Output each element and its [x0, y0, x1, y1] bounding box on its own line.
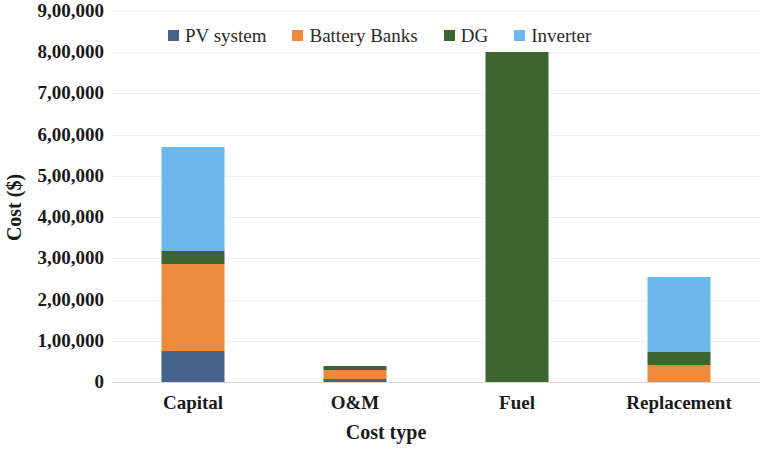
bar-segment[interactable] — [162, 251, 225, 264]
y-axis-tick-label: 0 — [0, 371, 104, 393]
bar-segment[interactable] — [648, 352, 711, 365]
bar-stack[interactable] — [324, 366, 387, 382]
x-axis-tick-labels: CapitalO&MFuelReplacement — [112, 392, 760, 420]
y-axis-tick-label: 7,00,000 — [0, 82, 104, 104]
bar-segment[interactable] — [162, 264, 225, 351]
bar-segment[interactable] — [162, 351, 225, 382]
bar-group — [112, 11, 274, 382]
x-axis-baseline — [112, 382, 760, 383]
bar-stack[interactable] — [162, 147, 225, 382]
bar-group — [598, 11, 760, 382]
bar-stack[interactable] — [648, 277, 711, 382]
bar-segment[interactable] — [648, 277, 711, 351]
bar-stack[interactable] — [486, 52, 549, 382]
x-axis-title: Cost type — [0, 421, 772, 444]
y-axis-tick-label: 2,00,000 — [0, 289, 104, 311]
bar-segment[interactable] — [162, 147, 225, 251]
bar-segment[interactable] — [648, 365, 711, 382]
x-axis-tick-label: Fuel — [499, 392, 535, 414]
y-axis-tick-label: 9,00,000 — [0, 0, 104, 22]
bar-series-layer — [112, 11, 760, 382]
y-axis-tick-label: 8,00,000 — [0, 41, 104, 63]
bar-segment[interactable] — [324, 370, 387, 378]
y-axis-tick-label: 1,00,000 — [0, 330, 104, 352]
x-axis-tick-label: Replacement — [626, 392, 732, 414]
y-axis-title: Cost ($) — [3, 128, 26, 288]
stacked-bar-chart: PV systemBattery BanksDGInverter 01,00,0… — [0, 0, 772, 449]
bar-group — [274, 11, 436, 382]
bar-group — [436, 11, 598, 382]
x-axis-tick-label: O&M — [331, 392, 380, 414]
bar-segment[interactable] — [486, 52, 549, 382]
x-axis-tick-label: Capital — [163, 392, 223, 414]
bar-segment[interactable] — [324, 379, 387, 382]
